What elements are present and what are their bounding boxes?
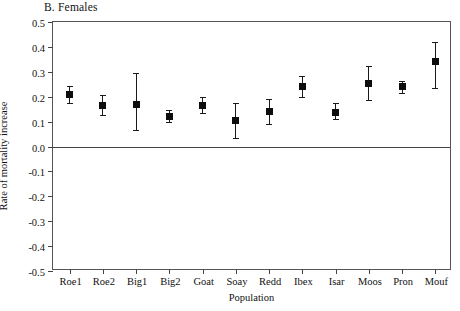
y-tick-label: 0.5: [32, 18, 45, 29]
x-tick-label: Isar: [329, 276, 345, 287]
y-tick: 0.2: [48, 97, 53, 98]
data-marker: [299, 83, 306, 90]
x-tick: Big1: [136, 269, 137, 274]
error-bar-cap: [233, 103, 239, 104]
y-tick: -0.3: [48, 221, 53, 222]
y-tick-label: 0.0: [32, 142, 45, 153]
y-tick-label: -0.2: [28, 192, 45, 203]
data-marker: [266, 108, 273, 115]
y-tick-label: 0.4: [32, 42, 45, 53]
error-bar-cap: [166, 110, 172, 111]
y-tick: 0.1: [48, 122, 53, 123]
x-tick-label: Redd: [259, 276, 281, 287]
y-tick: 0.0: [48, 147, 53, 148]
x-tick: Pron: [402, 269, 403, 274]
error-bar-cap: [200, 113, 206, 114]
error-bar-cap: [299, 76, 305, 77]
data-marker: [66, 91, 73, 98]
data-marker: [432, 58, 439, 65]
data-marker: [365, 80, 372, 87]
error-bar-cap: [133, 73, 139, 74]
x-tick: Mouf: [435, 269, 436, 274]
x-tick-label: Goat: [193, 276, 213, 287]
data-marker: [399, 83, 406, 90]
error-bar-cap: [333, 103, 339, 104]
x-tick-label: Big2: [160, 276, 180, 287]
y-tick-label: -0.3: [28, 217, 45, 228]
plot-area: 0.50.40.30.20.10.0-0.1-0.2-0.3-0.4-0.5 R…: [52, 21, 451, 270]
panel-title: B. Females: [44, 1, 98, 13]
error-bar-cap: [100, 95, 106, 96]
error-bar-cap: [333, 119, 339, 120]
error-bar-cap: [266, 124, 272, 125]
y-tick: -0.4: [48, 246, 53, 247]
x-tick: Isar: [336, 269, 337, 274]
y-tick-label: 0.3: [32, 67, 45, 78]
error-bar-cap: [100, 115, 106, 116]
x-tick-label: Roe1: [60, 276, 82, 287]
error-bar-cap: [366, 66, 372, 67]
y-tick: -0.5: [48, 271, 53, 272]
y-tick-label: 0.2: [32, 92, 45, 103]
y-tick: 0.3: [48, 72, 53, 73]
error-bar-cap: [399, 81, 405, 82]
y-axis-title: Rate of mortality increase: [0, 101, 9, 210]
y-tick: 0.4: [48, 47, 53, 48]
x-tick-label: Big1: [127, 276, 147, 287]
error-bar-cap: [67, 86, 73, 87]
x-tick: Redd: [269, 269, 270, 274]
x-tick-label: Pron: [393, 276, 413, 287]
y-tick-label: 0.1: [32, 117, 45, 128]
x-tick: Soay: [236, 269, 237, 274]
x-tick-label: Ibex: [294, 276, 313, 287]
error-bar-cap: [233, 138, 239, 139]
error-bar-cap: [366, 100, 372, 101]
x-tick-label: Mouf: [425, 276, 448, 287]
x-tick-label: Roe2: [93, 276, 115, 287]
error-bar-cap: [399, 93, 405, 94]
y-tick-label: -0.1: [28, 167, 45, 178]
y-tick: -0.2: [48, 196, 53, 197]
y-tick-label: -0.5: [28, 267, 45, 278]
data-marker: [232, 117, 239, 124]
x-tick: Roe2: [103, 269, 104, 274]
data-marker: [99, 102, 106, 109]
data-marker: [332, 109, 339, 116]
x-tick: Big2: [169, 269, 170, 274]
chart-figure: B. Females Rate of mortality increase 0.…: [0, 0, 460, 311]
y-tick: -0.1: [48, 171, 53, 172]
y-axis-ticks: 0.50.40.30.20.10.0-0.1-0.2-0.3-0.4-0.5: [53, 22, 450, 269]
error-bar-cap: [432, 88, 438, 89]
x-tick-label: Soay: [226, 276, 247, 287]
x-tick: Moos: [369, 269, 370, 274]
y-tick-label: -0.4: [28, 242, 45, 253]
x-tick: Goat: [203, 269, 204, 274]
data-marker: [199, 102, 206, 109]
error-bar-cap: [299, 97, 305, 98]
error-bar-cap: [67, 103, 73, 104]
error-bar-cap: [133, 130, 139, 131]
error-bar-cap: [266, 99, 272, 100]
error-bar-cap: [200, 97, 206, 98]
data-marker: [133, 101, 140, 108]
x-tick-label: Moos: [358, 276, 382, 287]
data-marker: [166, 113, 173, 120]
error-bar-cap: [166, 122, 172, 123]
x-axis-title: Population: [52, 292, 451, 303]
x-tick: Roe1: [70, 269, 71, 274]
x-tick: Ibex: [302, 269, 303, 274]
error-bar-cap: [432, 42, 438, 43]
y-tick: 0.5: [48, 22, 53, 23]
